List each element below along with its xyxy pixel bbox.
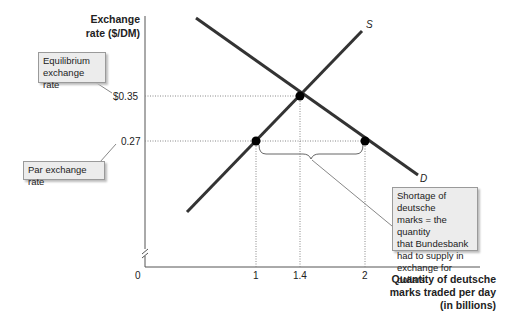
shortage-line1: Shortage of deutsche <box>397 190 473 214</box>
equilibrium-rate-box: Equilibrium exchange rate <box>38 52 106 83</box>
shortage-line2: marks = the quantity <box>397 214 473 238</box>
x-tick-1: 1 <box>253 270 259 281</box>
shortage-leader-line <box>312 160 392 226</box>
x-tick-1-4: 1.4 <box>293 270 307 281</box>
demand-curve-label: D <box>420 173 427 184</box>
demand-at-par-point <box>361 137 370 146</box>
eq-box-line1: Equilibrium <box>43 55 101 67</box>
guide-lines <box>145 96 365 267</box>
y-axis-title-line2: rate ($/DM) <box>78 26 140 40</box>
y-tick-par: 0.27 <box>121 136 140 147</box>
y-tick-equilibrium: $0.35 <box>113 91 138 102</box>
x-axis-title-line2: marks traded per day <box>380 286 496 299</box>
par-box-text: Par exchange rate <box>28 164 100 188</box>
y-axis-title-line1: Exchange <box>78 12 140 26</box>
shortage-box: Shortage of deutsche marks = the quantit… <box>392 187 478 251</box>
demand-curve <box>196 18 418 175</box>
par-rate-box: Par exchange rate <box>23 161 105 180</box>
shortage-line3: that Bundesbank <box>397 238 473 250</box>
supply-curve <box>187 31 362 212</box>
shortage-brace <box>259 145 363 159</box>
shortage-line5: exchange for dollars <box>397 262 473 286</box>
x-axis-title-line3: (in billions) <box>380 299 496 312</box>
equilibrium-point <box>296 92 305 101</box>
eq-box-line2: exchange rate <box>43 67 101 91</box>
x-tick-0: 0 <box>135 270 141 281</box>
supply-at-par-point <box>252 137 261 146</box>
x-tick-2: 2 <box>362 270 368 281</box>
par-leader-line <box>100 144 116 162</box>
shortage-line4: had to supply in <box>397 250 473 262</box>
supply-curve-label: S <box>366 19 373 30</box>
